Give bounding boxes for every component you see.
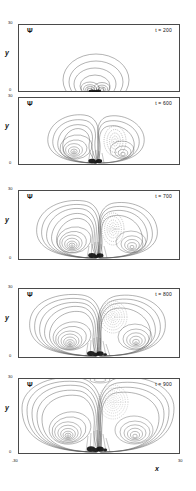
contour-plot-5 — [18, 378, 180, 454]
field-symbol-psi: Ψ — [27, 381, 33, 388]
field-symbol-psi: Ψ — [27, 193, 33, 200]
y-axis-label-5: y — [5, 404, 9, 411]
field-symbol-psi: Ψ — [27, 27, 33, 34]
contour-panel-2: Ψ t = 600 — [18, 97, 180, 165]
y-axis-min-tick-5: 0 — [9, 450, 11, 454]
y-axis-label-4: y — [5, 314, 9, 321]
y-axis-min-tick-2: 0 — [9, 161, 11, 165]
y-axis-label-2: y — [5, 122, 9, 129]
time-label-panel-2: t = 600 — [155, 101, 172, 106]
y-axis-min-tick-1: 0 — [9, 88, 11, 92]
y-axis-label-3: y — [5, 216, 9, 223]
contour-plot-2 — [18, 97, 180, 165]
contour-panel-3: Ψ t = 700 — [18, 190, 180, 260]
contour-panel-1: Ψ t = 200 — [18, 24, 180, 92]
time-label-panel-4: t = 800 — [155, 292, 172, 297]
x-axis-min-tick: -30 — [12, 459, 18, 463]
contour-plot-3 — [18, 190, 180, 260]
contour-figure: Ψ t = 200 30 y 0 — [0, 0, 196, 491]
y-axis-max-tick-4: 30 — [8, 285, 12, 289]
contour-plot-1 — [18, 24, 180, 92]
y-axis-max-tick-1: 30 — [8, 21, 12, 25]
field-symbol-psi: Ψ — [27, 100, 33, 107]
contour-plot-4 — [18, 288, 180, 358]
time-label-panel-5: t = 900 — [155, 382, 172, 387]
contour-panel-5: Ψ t = 900 — [18, 378, 180, 454]
contour-panel-4: Ψ t = 800 — [18, 288, 180, 358]
y-axis-min-tick-4: 0 — [9, 354, 11, 358]
time-label-panel-3: t = 700 — [155, 194, 172, 199]
x-axis-max-tick: 30 — [178, 459, 182, 463]
y-axis-max-tick-3: 30 — [8, 187, 12, 191]
x-axis-label: x — [155, 465, 159, 472]
y-axis-min-tick-3: 0 — [9, 256, 11, 260]
y-axis-label-1: y — [5, 49, 9, 56]
y-axis-max-tick-2: 30 — [8, 94, 12, 98]
time-label-panel-1: t = 200 — [155, 28, 172, 33]
y-axis-max-tick-5: 30 — [8, 375, 12, 379]
field-symbol-psi: Ψ — [27, 291, 33, 298]
